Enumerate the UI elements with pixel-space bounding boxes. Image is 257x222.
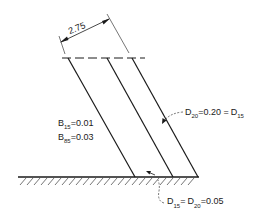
layer-boundary-2 bbox=[107, 58, 173, 177]
b15-label: B15=0.01 bbox=[58, 118, 93, 130]
dimension-label: 2.75 bbox=[67, 20, 87, 36]
ground-arrowhead bbox=[146, 171, 151, 175]
ground-hatching bbox=[20, 178, 194, 185]
d20-d15-label: D20=0.20 =D15 bbox=[185, 107, 245, 119]
dimension-arrowhead-right bbox=[102, 19, 110, 25]
dimension-extension-right bbox=[107, 14, 129, 53]
layer-boundary-3 bbox=[132, 58, 198, 177]
dimension-extension-left bbox=[59, 36, 65, 54]
d15-d20-bottom-label: D15=D20=0.05 bbox=[167, 196, 223, 209]
dimension-arrowhead-left bbox=[60, 37, 69, 43]
filter-layer-diagram: 2.75 B15=0.01 B85=0.03 D20=0.20 =D15 D15… bbox=[0, 0, 257, 222]
b85-label: B85=0.03 bbox=[58, 132, 93, 144]
